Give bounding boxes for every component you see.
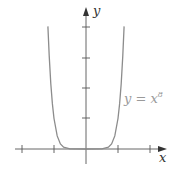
chart: y x y = x8: [0, 0, 173, 176]
y-axis-label: y: [92, 3, 101, 18]
equation-base: y = x: [124, 91, 158, 106]
equation-label: y = x8: [124, 90, 163, 106]
y-axis-arrow-icon: [83, 7, 89, 16]
plot-area: y x: [0, 0, 173, 176]
x-axis-label: x: [159, 150, 167, 165]
equation-exponent: 8: [158, 90, 163, 99]
